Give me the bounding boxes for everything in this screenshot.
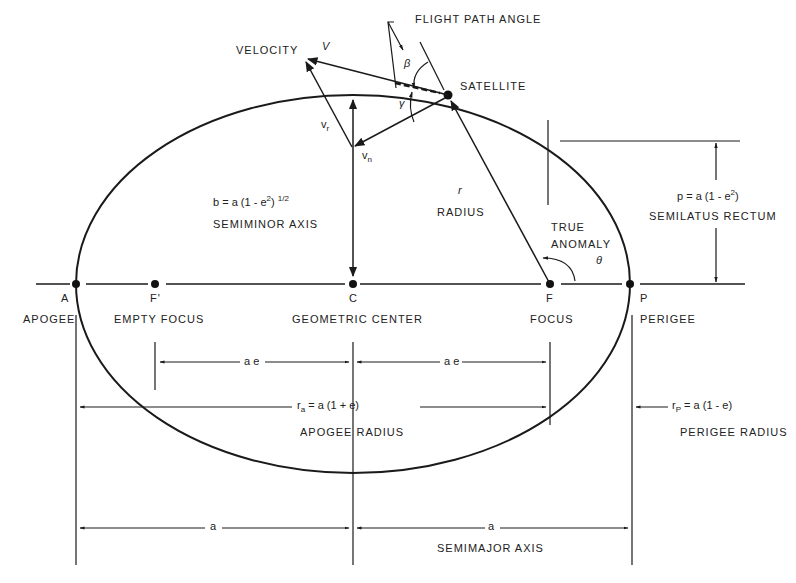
true-anomaly-arc [543,258,575,281]
beta-symbol: β [404,57,410,69]
apogee-radius-equation: ra = a (1 + e) [297,399,359,414]
point-apogee [72,280,80,288]
semimajor-a-left: a [210,520,216,532]
radius-vector [451,101,550,284]
velocity-label: VELOCITY [236,44,298,56]
normal-line [420,42,444,90]
radius-symbol: r [458,184,462,196]
point-empty-focus [151,280,159,288]
point-c-label: C [349,292,358,304]
perigee-label: PERIGEE [640,313,696,325]
ae-right-label: a e [444,355,459,367]
semiminor-equation: b = a (1 - e2) 1/2 [213,194,289,208]
semiminor-axis-label: SEMIMINOR AXIS [213,218,318,230]
point-a-label: A [61,292,69,304]
theta-symbol: θ [596,254,602,266]
beta-arc [414,62,428,88]
true-anomaly-label-1: TRUE [551,221,585,233]
semilatus-equation: p = a (1 - e2) [677,188,739,202]
vr-vector [306,62,352,147]
vr-label: vr [321,118,329,133]
vn-label: vn [362,149,372,164]
perigee-radius-equation: rP = a (1 - e) [672,399,732,414]
radius-label: RADIUS [437,206,485,218]
point-f-label: F [546,292,554,304]
semilatus-rectum-label: SEMILATUS RECTUM [649,210,777,222]
apogee-label: APOGEE [23,313,75,325]
gamma-arc [410,92,414,122]
point-f-prime-label: F' [150,292,161,304]
true-anomaly-label-2: ANOMALY [551,238,611,250]
apogee-radius-label: APOGEE RADIUS [300,426,404,438]
satellite-label: SATELLITE [460,80,526,92]
flight-path-leader [388,22,396,88]
flight-path-angle-label: FLIGHT PATH ANGLE [415,13,541,25]
empty-focus-label: EMPTY FOCUS [114,313,204,325]
point-perigee [626,280,634,288]
focus-label: FOCUS [530,313,574,325]
semimajor-a-right: a [488,520,494,532]
ae-left-label: a e [244,355,259,367]
point-center [349,280,357,288]
point-p-label: P [640,292,648,304]
perigee-radius-label: PERIGEE RADIUS [680,426,788,438]
semimajor-axis-label: SEMIMAJOR AXIS [437,542,544,554]
geometric-center-label: GEOMETRIC CENTER [292,313,423,325]
gamma-symbol: γ [399,97,405,109]
velocity-symbol: V [322,40,329,52]
orbit-diagram [0,0,796,583]
